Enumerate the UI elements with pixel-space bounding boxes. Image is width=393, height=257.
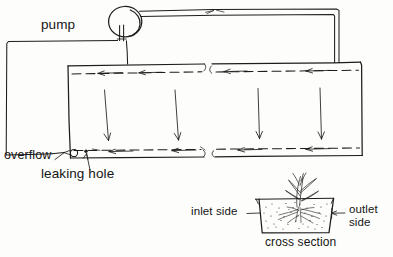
bottom-flow-arrows (93, 147, 331, 154)
delivery-pipe (140, 9, 340, 63)
inlet-side-leader (247, 213, 260, 214)
overflow-label: overflow (4, 148, 51, 162)
outlet-side-label-line2: side (349, 216, 371, 228)
inlet-side-label: inlet side (191, 205, 237, 217)
pump-label: pump (41, 17, 75, 32)
diagram-artwork (0, 0, 393, 257)
cross-section-caption: cross section (265, 235, 336, 249)
outlet-side-leader (332, 209, 346, 219)
surface-flow-arrows (98, 69, 330, 76)
plant-leaves (286, 173, 319, 207)
cross-section-inset (247, 173, 345, 233)
treatment-tank (68, 62, 362, 158)
percolation-arrows (104, 88, 324, 141)
pump-icon (109, 6, 142, 40)
substrate-stipple (264, 202, 328, 230)
plant-roots (279, 207, 322, 223)
outlet-side-label-line1: outlet (349, 203, 378, 215)
leaking-hole-label: leaking hole (41, 166, 114, 181)
diagram-canvas: pump overflow leaking hole inlet side ou… (0, 0, 393, 257)
